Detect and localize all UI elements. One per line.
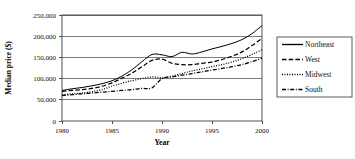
series-line-south (62, 58, 262, 95)
x-tick-label: 1985 (105, 127, 120, 135)
y-axis-title: Median price ($) (4, 41, 13, 95)
y-tick-label: 200,000 (33, 33, 56, 41)
x-tick-label: 1990 (155, 127, 170, 135)
y-tick-label: 50,000 (37, 96, 57, 104)
y-tick-label: 0 (53, 118, 57, 126)
y-tick-label: 100,000 (33, 75, 56, 83)
chart-legend: NortheastWestMidwestSouth (277, 37, 352, 97)
legend-label: Midwest (305, 70, 332, 79)
x-axis-title: Year (155, 138, 171, 147)
series-line-west (62, 38, 262, 91)
gridlines (62, 15, 262, 100)
x-tick-label: 1995 (205, 127, 220, 135)
y-tick-label: 150,000 (33, 54, 56, 62)
legend-label: Northeast (305, 40, 335, 49)
line-chart: 050,000100,000150,000200,000250,000 1980… (0, 0, 355, 159)
y-axis-tick-labels: 050,000100,000150,000200,000250,000 (33, 12, 56, 126)
series-line-northeast (62, 26, 262, 91)
legend-label: West (305, 55, 321, 64)
x-axis-tick-labels: 19801985199019952000 (55, 127, 270, 135)
chart-figure: 050,000100,000150,000200,000250,000 1980… (0, 0, 355, 159)
plot-frame (62, 15, 262, 121)
x-tick-label: 1980 (55, 127, 70, 135)
legend-label: South (305, 85, 323, 94)
y-tick-label: 250,000 (33, 12, 56, 20)
x-tick-label: 2000 (255, 127, 270, 135)
